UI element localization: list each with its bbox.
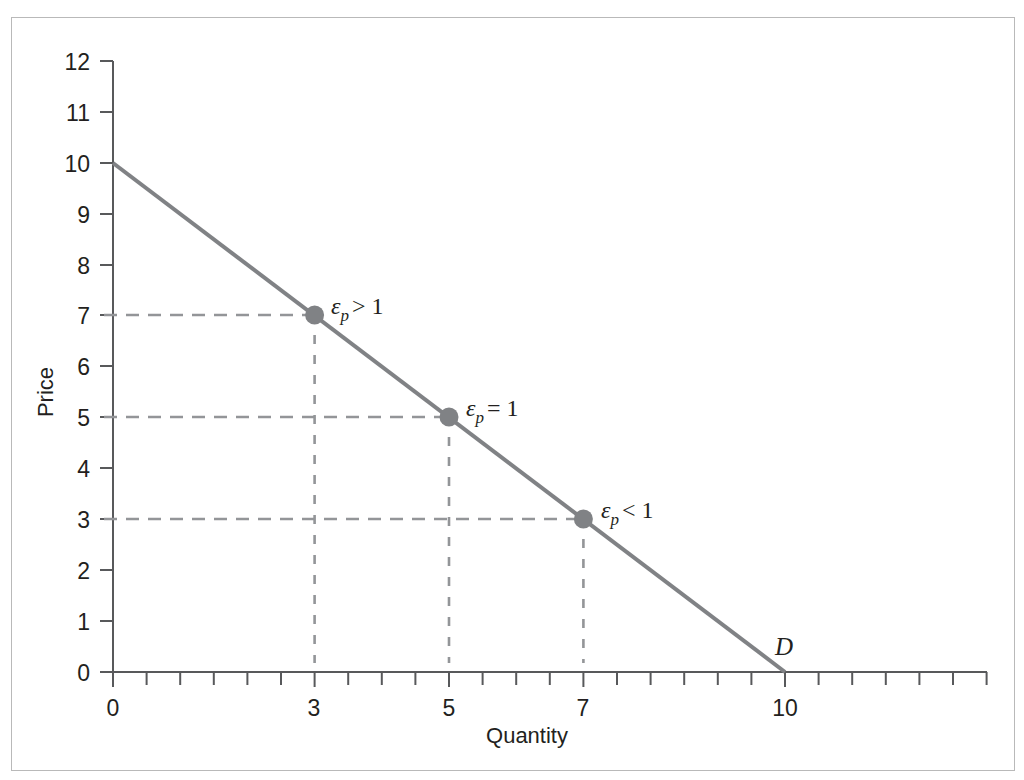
annotation-unit-elastic: εp= 1	[466, 395, 519, 427]
annotation-inelastic: εp< 1	[601, 497, 654, 529]
y-tick-label-12: 12	[64, 49, 90, 75]
y-tick-label-1: 1	[77, 609, 90, 635]
demand-curve-label: D	[774, 633, 793, 660]
guide-lines	[104, 315, 583, 663]
annotation-elastic-subscript: p	[339, 306, 349, 325]
x-tick-label-7: 7	[577, 695, 590, 721]
y-axis-title: Price	[33, 367, 58, 417]
y-tick-label-7: 7	[77, 303, 90, 329]
y-tick-label-9: 9	[77, 202, 90, 228]
svg-text:εp= 1: εp= 1	[466, 395, 519, 427]
x-axis-title: Quantity	[486, 723, 568, 748]
y-tick-label-2: 2	[77, 558, 90, 584]
annotation-elastic: εp> 1	[331, 293, 384, 325]
y-tick-label-10: 10	[64, 151, 90, 177]
y-tick-label-4: 4	[77, 456, 90, 482]
annotation-unit-elastic-subscript: p	[474, 408, 484, 427]
data-point-elastic[interactable]	[305, 306, 324, 325]
x-axis-ticks	[113, 672, 987, 687]
y-tick-label-8: 8	[77, 253, 90, 279]
x-axis: 0 3 5 7 10	[107, 672, 987, 721]
y-axis: 12 11 10 9 8 7 6 5 4 3 2 1 0	[64, 49, 113, 686]
y-tick-label-5: 5	[77, 405, 90, 431]
y-tick-label-0: 0	[77, 660, 90, 686]
y-tick-label-11: 11	[66, 100, 90, 126]
annotation-elastic-relation: > 1	[352, 293, 384, 319]
svg-text:εp< 1: εp< 1	[601, 497, 654, 529]
data-point-inelastic[interactable]	[574, 510, 593, 529]
data-point-unit-elastic[interactable]	[440, 408, 459, 427]
annotation-inelastic-relation: < 1	[622, 497, 654, 523]
x-tick-label-5: 5	[443, 695, 456, 721]
svg-text:εp> 1: εp> 1	[331, 293, 384, 325]
y-tick-label-3: 3	[77, 507, 90, 533]
annotation-inelastic-subscript: p	[609, 510, 619, 529]
y-axis-ticks	[100, 61, 113, 672]
demand-curve-chart: 12 11 10 9 8 7 6 5 4 3 2 1 0 Price	[0, 0, 1024, 780]
y-tick-label-6: 6	[77, 354, 90, 380]
annotation-unit-elastic-relation: = 1	[487, 395, 519, 421]
x-tick-label-0: 0	[107, 695, 120, 721]
x-tick-label-10: 10	[772, 695, 798, 721]
x-tick-label-3: 3	[308, 695, 321, 721]
figure-root: 12 11 10 9 8 7 6 5 4 3 2 1 0 Price	[0, 0, 1024, 780]
